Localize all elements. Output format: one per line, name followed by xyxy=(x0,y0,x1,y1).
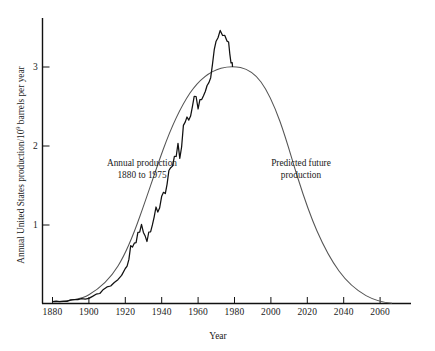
predicted-future-annotation-line2: production xyxy=(271,170,331,182)
x-tick-label-1920: 1920 xyxy=(115,307,135,317)
annual-production-annotation-line2: 1880 to 1975 xyxy=(107,170,177,182)
annual-production-annotation-line1: Annual production xyxy=(107,158,177,170)
x-axis-ticks xyxy=(53,297,381,304)
x-tick-label-2060: 2060 xyxy=(370,307,390,317)
x-tick-label-2000: 2000 xyxy=(261,307,281,317)
x-tick-label-1900: 1900 xyxy=(79,307,99,317)
y-axis-title: Annual United States production/109 barr… xyxy=(16,50,26,280)
hubbert-peak-chart: 1880 1900 1920 1940 1960 1980 2000 2020 … xyxy=(0,0,435,351)
y-axis-title-exponent: 9 xyxy=(14,126,21,129)
predicted-future-annotation-line1: Predicted future xyxy=(271,158,331,170)
y-axis-title-suffix: barrels per year xyxy=(16,66,26,126)
y-tick-label-2: 2 xyxy=(33,141,38,151)
y-axis-title-prefix: Annual United States production/10 xyxy=(16,130,26,264)
chart-plot-area xyxy=(0,0,435,351)
x-tick-label-1880: 1880 xyxy=(43,307,63,317)
x-axis-title: Year xyxy=(209,331,227,341)
annual-production-annotation: Annual production 1880 to 1975 xyxy=(107,158,177,181)
x-tick-label-1940: 1940 xyxy=(152,307,172,317)
x-tick-label-2040: 2040 xyxy=(334,307,354,317)
x-tick-label-1960: 1960 xyxy=(188,307,208,317)
x-tick-label-2020: 2020 xyxy=(297,307,317,317)
y-axis-ticks xyxy=(43,67,50,225)
y-tick-label-3: 3 xyxy=(33,62,38,72)
predicted-future-production-curve xyxy=(53,67,393,304)
x-tick-label-1980: 1980 xyxy=(225,307,245,317)
predicted-future-annotation: Predicted future production xyxy=(271,158,331,181)
y-tick-label-1: 1 xyxy=(33,220,38,230)
